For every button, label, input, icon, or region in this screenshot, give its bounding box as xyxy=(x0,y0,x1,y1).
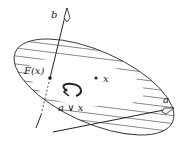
arrow-a-icon xyxy=(162,108,174,114)
clear-region xyxy=(29,59,144,106)
diagram-canvas: b a F(x) x a ∨ x xyxy=(0,0,187,165)
point-fx xyxy=(48,76,52,80)
label-a-join-x: a ∨ x xyxy=(58,102,84,113)
label-a: a xyxy=(163,94,169,105)
line-b-tail xyxy=(36,115,41,128)
label-x: x xyxy=(103,73,109,84)
label-fx: F(x) xyxy=(23,65,44,76)
label-b: b xyxy=(51,9,57,20)
arrow-b-icon xyxy=(64,8,70,22)
point-x xyxy=(94,76,97,79)
